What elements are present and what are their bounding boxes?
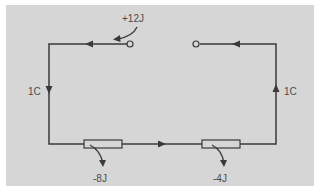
arrow-left-icon	[85, 41, 93, 48]
arrow-down-icon	[46, 86, 53, 94]
charge-label-left: 1C	[28, 86, 41, 97]
current-direction-arrows	[46, 41, 280, 148]
arrow-right-icon	[158, 141, 166, 148]
charge-label-right: 1C	[284, 86, 297, 97]
circuit-diagram: +12J 1C 1C -8J -4J	[0, 0, 321, 191]
source-terminal-right	[193, 41, 199, 47]
arrow-up-icon	[273, 84, 280, 92]
source-energy-label: +12J	[122, 13, 144, 24]
arrow-left-icon	[232, 41, 240, 48]
resistor-r2	[202, 140, 240, 148]
resistor-r1	[84, 140, 122, 148]
wire-loop	[49, 44, 276, 144]
energy-gain-arrow-icon	[118, 27, 137, 39]
resistor-r1-energy-label: -8J	[93, 173, 107, 184]
resistor-r2-energy-label: -4J	[213, 173, 227, 184]
source-terminal-left	[127, 41, 133, 47]
